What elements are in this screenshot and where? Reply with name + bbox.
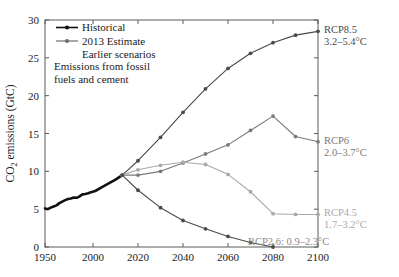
endpoint-label-RCP4.5-name: RCP4.5	[324, 207, 357, 218]
series-point	[294, 213, 298, 217]
x-tick-label: 2080	[262, 251, 285, 263]
endpoint-label-RCP8.5-range: 3.2–5.4°C	[324, 36, 367, 47]
series-point	[316, 140, 320, 144]
y-tick-label: 5	[34, 203, 40, 215]
series-point	[294, 135, 298, 139]
series-point	[136, 159, 140, 163]
series-point	[271, 41, 275, 45]
endpoint-label-RCP6-range: 2.0–3.7°C	[324, 147, 367, 158]
series-point	[181, 110, 185, 114]
legend-label-2: Earlier scenarios	[82, 48, 156, 60]
co2-emissions-line-chart: 1950200020202040206020802100051015202530…	[0, 0, 399, 277]
y-tick-label: 20	[28, 90, 40, 102]
series-point	[294, 33, 298, 37]
chart-figure: 1950200020202040206020802100051015202530…	[0, 0, 399, 277]
x-tick-label: 2040	[172, 251, 195, 263]
series-point	[159, 169, 163, 173]
series-point	[204, 87, 208, 91]
legend-label-1: 2013 Estimate	[82, 35, 145, 47]
series-point	[120, 173, 124, 177]
series-point	[316, 29, 320, 33]
y-tick-label: 30	[28, 14, 40, 26]
series-point	[226, 172, 230, 176]
x-tick-label: 2100	[307, 251, 330, 263]
series-point	[249, 51, 253, 55]
series-line-Historical	[45, 175, 122, 209]
x-tick-label: 2060	[217, 251, 240, 263]
series-point	[159, 206, 163, 210]
series-point	[136, 188, 140, 192]
y-tick-label: 15	[28, 128, 40, 140]
series-point	[316, 213, 320, 217]
series-point	[181, 160, 185, 164]
y-axis-label: CO2 emissions (GtC)	[4, 84, 19, 182]
endpoint-label-RCP4.5-range: 1.7–3.2°C	[324, 219, 367, 230]
endpoint-label-RCP6-name: RCP6	[324, 135, 349, 146]
series-point	[226, 67, 230, 71]
y-tick-label: 0	[34, 241, 40, 253]
x-tick-label: 2020	[127, 251, 150, 263]
series-point	[181, 219, 185, 223]
inline-label-RCP2.6: RCP2.6: 0.9–2.3°C	[248, 236, 329, 247]
series-point	[271, 114, 275, 118]
series-line-RCP4.5	[122, 162, 318, 214]
legend-label-0: Historical	[82, 21, 125, 33]
series-point	[136, 168, 140, 172]
series-point	[226, 143, 230, 147]
annotation-line-1: Emissions from fossil	[54, 60, 150, 72]
y-tick-label: 10	[28, 165, 40, 177]
series-point	[204, 152, 208, 156]
legend-marker-0	[65, 25, 69, 29]
series-line-RCP6	[122, 116, 318, 175]
endpoint-label-RCP8.5-name: RCP8.5	[324, 24, 357, 35]
series-point	[204, 163, 208, 167]
series-point	[271, 212, 275, 216]
series-point	[159, 163, 163, 167]
series-point	[249, 190, 253, 194]
series-point	[136, 173, 140, 177]
series-point	[159, 135, 163, 139]
series-point	[249, 129, 253, 133]
series-point	[204, 227, 208, 231]
series-point	[226, 235, 230, 239]
legend-marker-1	[65, 39, 69, 43]
y-tick-label: 25	[28, 52, 40, 64]
x-tick-label: 2000	[82, 251, 105, 263]
annotation-line-2: fuels and cement	[54, 73, 129, 85]
